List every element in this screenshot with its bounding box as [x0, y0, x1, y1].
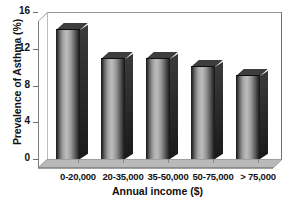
x-tick-label-4: > 75,000 [224, 171, 290, 182]
x-tick-labels: 0-20,000 20-35,000 35-50,000 50-75,000 >… [38, 171, 286, 185]
bar-side-face [215, 62, 223, 159]
bar-front-face [56, 30, 80, 159]
bar-side-face [125, 54, 133, 159]
bar-top-edge [191, 66, 215, 67]
bar-front-face [101, 59, 125, 159]
x-tick-4 [258, 159, 259, 163]
bar-side-face [80, 25, 88, 159]
plot-area: 0 4 8 12 16 [38, 12, 282, 172]
bar-side-face [170, 54, 178, 159]
bar-front-face [191, 67, 215, 159]
y-tick-12: 12 [33, 49, 38, 50]
bar-50000-75000 [191, 67, 215, 159]
bar-over-75000 [236, 76, 260, 159]
bar-top-edge [56, 29, 80, 30]
y-tick-label-0: 0 [24, 153, 30, 163]
y-tick-16: 16 [33, 12, 38, 13]
bar-top-edge [101, 58, 125, 59]
y-tick-0: 0 [33, 159, 38, 160]
y-axis-line [38, 21, 39, 168]
bar-front-face [146, 59, 170, 159]
bar-0-20000 [56, 30, 80, 159]
asthma-prevalence-bar-chart: Prevalence of Asthma (%) 0 4 8 [0, 0, 290, 205]
y-tick-label-12: 12 [19, 43, 30, 53]
bar-top-edge [146, 58, 170, 59]
x-axis-title: Annual income ($) [30, 185, 285, 197]
y-axis-title: Prevalence of Asthma (%) [11, 2, 23, 162]
y-tick-4: 4 [33, 122, 38, 123]
y-tick-label-4: 4 [24, 116, 30, 126]
bar-side-face [260, 71, 268, 159]
y-tick-label-8: 8 [24, 80, 30, 90]
bar-top-edge [236, 75, 260, 76]
bar-front-face [236, 76, 260, 159]
x-tick-0 [78, 159, 79, 163]
y-tick-label-16: 16 [19, 6, 30, 16]
bar-20000-35000 [101, 59, 125, 159]
chart-left-depth-edge [38, 12, 48, 172]
y-tick-8: 8 [33, 86, 38, 87]
x-tick-3 [213, 159, 214, 163]
x-tick-1 [123, 159, 124, 163]
bar-35000-50000 [146, 59, 170, 159]
x-tick-2 [168, 159, 169, 163]
